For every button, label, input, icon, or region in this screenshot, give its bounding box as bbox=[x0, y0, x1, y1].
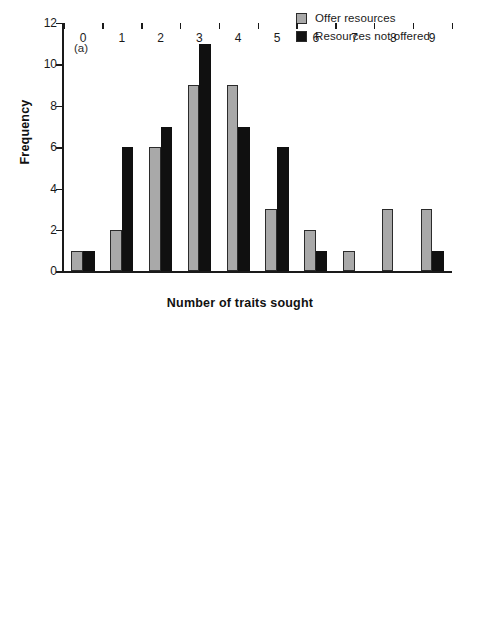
x-tick-mark bbox=[335, 23, 336, 29]
chart-panel-a: Offer resources Resources not offered (a… bbox=[0, 0, 480, 320]
x-tick-label: 1 bbox=[118, 31, 125, 299]
x-tick-mark bbox=[258, 23, 259, 29]
x-tick-label: 4 bbox=[235, 31, 242, 299]
x-tick-mark bbox=[102, 23, 103, 29]
y-tick-label: 12 bbox=[44, 16, 57, 30]
y-tick-label: 6 bbox=[50, 140, 57, 154]
legend-swatch-icon bbox=[296, 13, 307, 24]
x-tick-label: 5 bbox=[274, 31, 281, 299]
y-tick-label: 4 bbox=[50, 182, 57, 196]
y-tick-label: 0 bbox=[50, 264, 57, 278]
y-axis-title: Frequency bbox=[18, 99, 32, 164]
y-tick-label: 10 bbox=[44, 57, 57, 71]
y-tick-label: 8 bbox=[50, 99, 57, 113]
x-tick-mark bbox=[452, 23, 453, 29]
x-tick-label: 3 bbox=[196, 31, 203, 299]
x-tick-mark bbox=[219, 23, 220, 29]
x-tick-label: 9 bbox=[429, 31, 436, 299]
x-tick-label: 2 bbox=[157, 31, 164, 299]
plot-area-a: 0246810120123456789 bbox=[62, 23, 452, 273]
x-tick-label: 8 bbox=[390, 31, 397, 299]
chart-panel-b: Offer attractiveness Attractiveness not … bbox=[0, 320, 480, 637]
x-tick-label: 0 bbox=[80, 31, 87, 299]
x-tick-label: 7 bbox=[351, 31, 358, 299]
x-tick-label: 6 bbox=[312, 31, 319, 299]
x-tick-mark bbox=[141, 23, 142, 29]
x-tick-mark bbox=[413, 23, 414, 29]
x-tick-mark bbox=[296, 23, 297, 29]
x-tick-mark bbox=[64, 23, 65, 29]
x-tick-mark bbox=[180, 23, 181, 29]
y-tick-label: 2 bbox=[50, 223, 57, 237]
x-tick-mark bbox=[374, 23, 375, 29]
